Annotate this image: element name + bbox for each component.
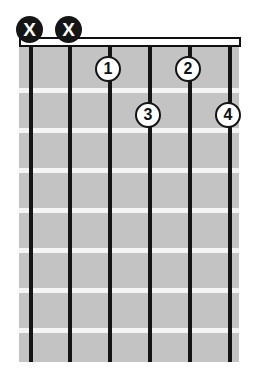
string-5 bbox=[188, 42, 192, 362]
string-1 bbox=[29, 42, 33, 362]
fret-line-6 bbox=[19, 288, 239, 293]
nut bbox=[19, 37, 241, 47]
string-3 bbox=[108, 42, 112, 362]
finger-dot-2: 2 bbox=[175, 56, 201, 82]
fret-line-1 bbox=[19, 88, 239, 93]
string-2 bbox=[68, 42, 72, 362]
fretboard bbox=[19, 46, 239, 362]
fret-line-5 bbox=[19, 248, 239, 253]
mute-marker-string-1: X bbox=[16, 16, 43, 43]
string-6 bbox=[228, 42, 232, 362]
fret-line-3 bbox=[19, 168, 239, 173]
finger-dot-1: 1 bbox=[95, 56, 121, 82]
fret-line-2 bbox=[19, 128, 239, 133]
mute-marker-string-2: X bbox=[55, 16, 82, 43]
fret-line-4 bbox=[19, 208, 239, 213]
chord-diagram: XX 1234 bbox=[0, 0, 257, 384]
finger-dot-3: 3 bbox=[135, 102, 161, 128]
string-4 bbox=[148, 42, 152, 362]
fret-line-7 bbox=[19, 328, 239, 333]
finger-dot-4: 4 bbox=[215, 102, 241, 128]
